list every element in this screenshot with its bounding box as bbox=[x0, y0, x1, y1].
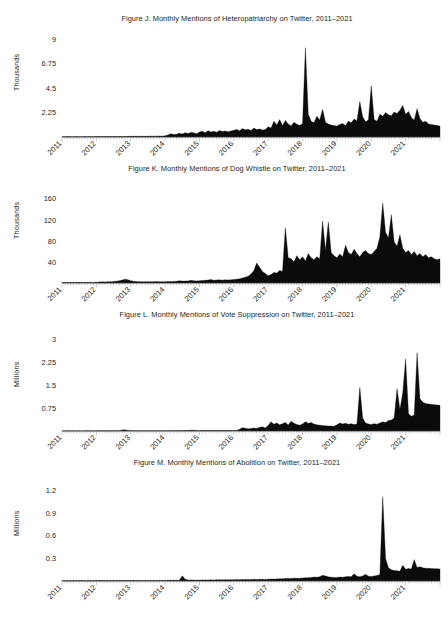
y-tick-label: 160 bbox=[44, 194, 56, 203]
y-tick-label: 4.5 bbox=[46, 84, 56, 93]
x-tick-label: 2011 bbox=[45, 285, 63, 303]
x-tick-label: 2012 bbox=[79, 139, 97, 157]
x-tick-label: 2013 bbox=[114, 433, 132, 451]
x-tick-label: 2016 bbox=[217, 583, 235, 601]
x-tick-label: 2013 bbox=[114, 285, 132, 303]
x-tick-label: 2015 bbox=[183, 433, 201, 451]
x-tick-label: 2011 bbox=[45, 583, 63, 601]
y-tick-label: 0.9 bbox=[46, 509, 56, 518]
x-tick-label: 2018 bbox=[286, 583, 304, 601]
figure-j: Figure J. Monthly Mentions of Heteropatr… bbox=[0, 14, 448, 23]
chart-plot-area: 1601208040201120122013201420152016201720… bbox=[0, 175, 448, 309]
x-tick-label: 2021 bbox=[389, 433, 407, 451]
y-tick-label: 0.75 bbox=[42, 404, 56, 413]
x-tick-label: 2018 bbox=[286, 139, 304, 157]
x-tick-label: 2020 bbox=[354, 285, 372, 303]
x-tick-label: 2012 bbox=[79, 583, 97, 601]
y-tick-label: 1.5 bbox=[46, 381, 56, 390]
series-area bbox=[62, 353, 440, 431]
figure-l: Figure L. Monthly Mentions of Vote Suppr… bbox=[0, 310, 448, 319]
x-tick-label: 2011 bbox=[45, 433, 63, 451]
x-tick-label: 2016 bbox=[217, 285, 235, 303]
x-tick-label: 2014 bbox=[148, 285, 166, 303]
y-tick-label: 120 bbox=[44, 216, 56, 225]
x-tick-label: 2017 bbox=[251, 433, 269, 451]
y-tick-label: 0.3 bbox=[46, 554, 56, 563]
figure-title: Figure M. Monthly Mentions of Abolition … bbox=[0, 458, 448, 467]
x-tick-label: 2019 bbox=[320, 285, 338, 303]
y-tick-label: 2.25 bbox=[42, 108, 56, 117]
figure-m: Figure M. Monthly Mentions of Abolition … bbox=[0, 458, 448, 467]
x-tick-label: 2016 bbox=[217, 139, 235, 157]
y-tick-label: 40 bbox=[48, 258, 56, 267]
x-tick-label: 2017 bbox=[251, 583, 269, 601]
figure-title: Figure L. Monthly Mentions of Vote Suppr… bbox=[0, 310, 448, 319]
x-tick-label: 2020 bbox=[354, 583, 372, 601]
figure-k: Figure K. Monthly Mentions of Dog Whistl… bbox=[0, 164, 448, 173]
x-tick-label: 2013 bbox=[114, 583, 132, 601]
x-tick-label: 2012 bbox=[79, 433, 97, 451]
x-tick-label: 2015 bbox=[183, 285, 201, 303]
x-tick-label: 2020 bbox=[354, 139, 372, 157]
x-tick-label: 2017 bbox=[251, 139, 269, 157]
series-area bbox=[62, 497, 440, 581]
chart-plot-area: 96.754.52.252011201220132014201520162017… bbox=[0, 23, 448, 163]
chart-plot-area: 32.251.50.752011201220132014201520162017… bbox=[0, 323, 448, 457]
x-tick-label: 2011 bbox=[45, 139, 63, 157]
x-tick-label: 2012 bbox=[79, 285, 97, 303]
x-tick-label: 2019 bbox=[320, 433, 338, 451]
figure-title: Figure J. Monthly Mentions of Heteropatr… bbox=[0, 14, 448, 23]
x-tick-label: 2018 bbox=[286, 433, 304, 451]
x-tick-label: 2015 bbox=[183, 583, 201, 601]
x-tick-label: 2021 bbox=[389, 285, 407, 303]
x-tick-label: 2021 bbox=[389, 139, 407, 157]
y-tick-label: 2.25 bbox=[42, 358, 56, 367]
x-tick-label: 2019 bbox=[320, 583, 338, 601]
series-area bbox=[62, 203, 440, 283]
x-tick-label: 2016 bbox=[217, 433, 235, 451]
x-tick-label: 2020 bbox=[354, 433, 372, 451]
y-tick-label: 3 bbox=[52, 335, 56, 344]
chart-plot-area: 1.20.90.60.32011201220132014201520162017… bbox=[0, 471, 448, 607]
x-tick-label: 2015 bbox=[183, 139, 201, 157]
x-tick-label: 2013 bbox=[114, 139, 132, 157]
x-tick-label: 2017 bbox=[251, 285, 269, 303]
series-area bbox=[62, 48, 440, 137]
x-tick-label: 2014 bbox=[148, 583, 166, 601]
y-tick-label: 6.75 bbox=[42, 59, 56, 68]
figure-title: Figure K. Monthly Mentions of Dog Whistl… bbox=[0, 164, 448, 173]
y-tick-label: 9 bbox=[52, 35, 56, 44]
x-tick-label: 2021 bbox=[389, 583, 407, 601]
y-tick-label: 80 bbox=[48, 237, 56, 246]
x-tick-label: 2018 bbox=[286, 285, 304, 303]
x-tick-label: 2014 bbox=[148, 139, 166, 157]
y-tick-label: 0.6 bbox=[46, 531, 56, 540]
y-tick-label: 1.2 bbox=[46, 486, 56, 495]
x-tick-label: 2014 bbox=[148, 433, 166, 451]
x-tick-label: 2019 bbox=[320, 139, 338, 157]
